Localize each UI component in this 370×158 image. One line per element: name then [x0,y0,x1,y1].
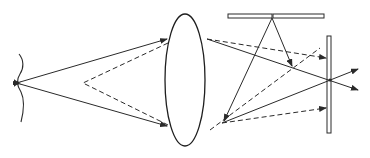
wavefront-curve [17,54,23,122]
ray-upper-solid [20,39,167,82]
ray-lens-lower-through [222,69,358,123]
virtual-ray-dashed-v [83,43,168,125]
right-mirror [327,36,331,133]
ray-lower-dashed-to-mirror [222,108,326,123]
top-mirror-right [273,14,324,18]
ray-upper-dashed-to-mirror [207,39,326,58]
crossing-point [328,78,331,81]
ray-lower-solid [20,84,167,126]
ray-diagonal-dashed [210,48,320,130]
ray-lens-upper-through [207,39,358,90]
optics-diagram [0,0,370,158]
ray-topmirror-to-cross [272,18,292,66]
lens [165,14,205,146]
top-mirror-left [228,14,272,18]
